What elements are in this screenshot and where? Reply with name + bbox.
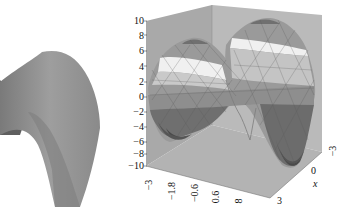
- y-tick: 3: [277, 196, 282, 206]
- z-tick: 10: [122, 16, 144, 26]
- y-tick: 8: [234, 199, 244, 204]
- left-surface-plot: [0, 0, 130, 207]
- x-tick: 0: [311, 166, 316, 176]
- y-tick: −0.6: [190, 184, 200, 202]
- y-tick: 0.6: [211, 191, 221, 204]
- z-tick: 8: [122, 31, 144, 41]
- x-axis-label: x: [313, 179, 317, 189]
- z-tick: −8: [122, 149, 144, 159]
- z-tick: 4: [122, 62, 144, 72]
- z-tick: −4: [122, 122, 144, 132]
- z-tick: −2: [122, 107, 144, 117]
- z-tick: 2: [122, 77, 144, 87]
- z-tick: −10: [122, 161, 144, 171]
- z-axis: 10 8 6 4 2 0 −2 −4 −6 −8 −10: [120, 0, 144, 207]
- z-tick: 6: [122, 46, 144, 56]
- x-tick: −3: [328, 146, 338, 157]
- z-tick: −6: [122, 137, 144, 147]
- right-surface-plot: [130, 0, 341, 207]
- z-tick: 0: [122, 92, 144, 102]
- left-surface-main: [0, 51, 100, 207]
- y-tick: −3: [144, 180, 154, 191]
- y-tick: −1.8: [167, 182, 177, 200]
- figure: 10 8 6 4 2 0 −2 −4 −6 −8 −10 −3 −1.8 −0.…: [0, 0, 341, 207]
